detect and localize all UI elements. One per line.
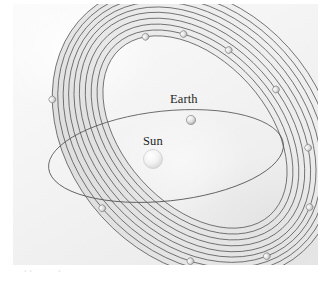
earth-body	[186, 115, 195, 124]
clipped-caption: clipped caption text	[13, 270, 313, 279]
sun-body	[144, 150, 163, 169]
earth-label: Earth	[170, 93, 198, 106]
orbit-diagram-panel: Earth Sun	[13, 4, 318, 265]
clipped-caption-text: clipped caption text	[13, 270, 313, 272]
sun-label: Sun	[143, 135, 163, 148]
figure-root: Earth Sun clipped caption text	[0, 0, 326, 286]
orbit-shell-band	[13, 4, 318, 265]
orbit-diagram-canvas	[13, 4, 318, 265]
